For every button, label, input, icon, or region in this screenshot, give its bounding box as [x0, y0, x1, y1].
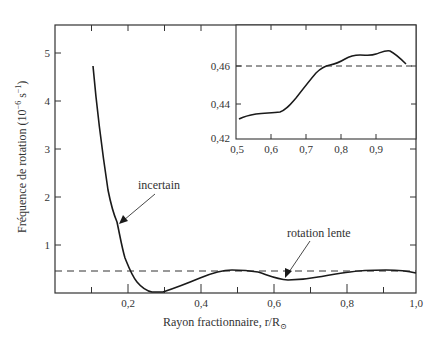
- x-axis-title-text: Rayon fractionnaire, r/R: [163, 315, 280, 329]
- inset-x-tick-0.7: 0,7: [299, 143, 313, 155]
- y-tick-5: 5: [45, 47, 51, 59]
- inset-x-tick-0.6: 0,6: [264, 143, 278, 155]
- annotation-incertain: incertain: [138, 178, 180, 192]
- annotation-incertain-arrow-line: [124, 194, 155, 220]
- y-axis-title: Fréquence de rotation (10−6 s−1): [14, 81, 29, 233]
- y-axis-title-text: Fréquence de rotation (10: [15, 109, 29, 233]
- inset-y-tick-labels: 0,42 0,44 0,46: [211, 60, 231, 144]
- x-tick-0.8: 0,8: [340, 297, 354, 309]
- x-axis-title: Rayon fractionnaire, r/R⊙: [163, 315, 287, 331]
- x-tick-0.2: 0,2: [121, 297, 135, 309]
- y-tick-3: 3: [45, 143, 51, 155]
- inset-y-tick-0.44: 0,44: [211, 98, 231, 110]
- y-tick-4: 4: [45, 95, 51, 107]
- annotation-rotation-lente: rotation lente: [287, 226, 351, 240]
- y-tick-2: 2: [45, 191, 51, 203]
- annotation-incertain-arrowhead-icon: [119, 215, 128, 224]
- x-tick-0.4: 0,4: [194, 297, 208, 309]
- inset-y-tick-0.46: 0,46: [211, 60, 231, 72]
- inset-x-tick-0.8: 0,8: [334, 143, 348, 155]
- y-axis-title-end: ): [15, 81, 29, 85]
- chart: 0,2 0,4 0,6 0,8 1,0 1 2 3 4 5 incertain …: [0, 0, 440, 340]
- x-tick-0.6: 0,6: [267, 297, 281, 309]
- y-tick-1: 1: [45, 239, 51, 251]
- annotation-rotation-lente-arrow-line: [289, 241, 310, 272]
- y-axis-title-exp1: −6: [14, 101, 23, 110]
- main-x-tick-labels: 0,2 0,4 0,6 0,8 1,0: [121, 297, 423, 309]
- y-axis-title-exp2: −1: [14, 85, 23, 94]
- inset-x-tick-labels: 0,5 0,6 0,7 0,8 0,9: [230, 143, 383, 155]
- inset-y-tick-0.42: 0,42: [211, 132, 230, 144]
- inset-plot-frame: [236, 25, 416, 139]
- inset-x-tick-0.5: 0,5: [230, 143, 244, 155]
- main-y-tick-labels: 1 2 3 4 5: [45, 47, 51, 251]
- x-axis-title-subscript: ⊙: [280, 322, 287, 331]
- x-tick-1.0: 1,0: [409, 297, 423, 309]
- inset-x-tick-0.9: 0,9: [369, 143, 383, 155]
